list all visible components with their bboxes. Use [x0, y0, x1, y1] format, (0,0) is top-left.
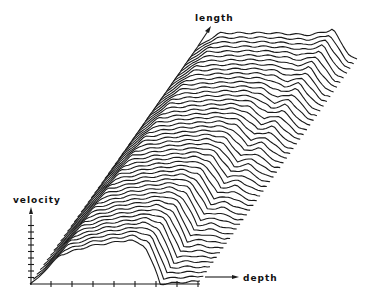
velocity-axis-label: velocity	[13, 195, 61, 205]
length-axis-label: length	[195, 13, 234, 23]
waterfall-plot: velocity depth length	[0, 0, 369, 302]
depth-axis-label: depth	[243, 273, 278, 283]
length-arrow-icon	[205, 26, 211, 33]
velocity-arrow-icon	[29, 207, 33, 214]
depth-arrow-icon	[232, 275, 239, 279]
velocity-traces	[30, 29, 357, 286]
